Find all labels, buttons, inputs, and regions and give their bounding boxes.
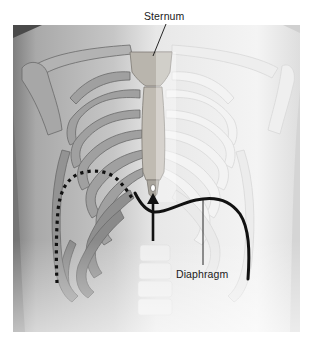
sternum-label: Sternum [144, 10, 184, 22]
diaphragm-label: Diaphragm [176, 268, 228, 280]
thorax-illustration [0, 0, 311, 338]
thorax-diagram: Sternum Diaphragm [0, 0, 311, 338]
